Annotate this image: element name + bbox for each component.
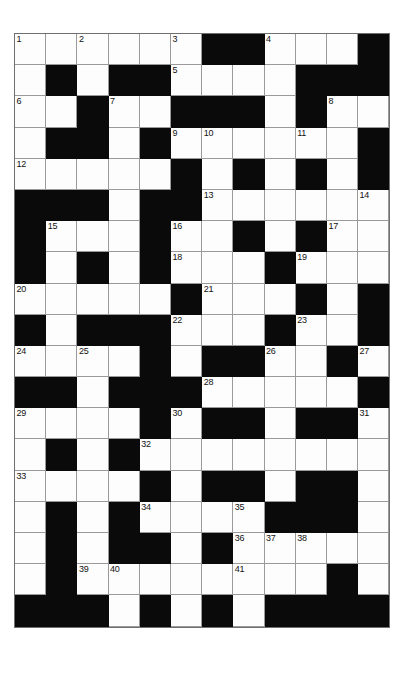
- open-cell[interactable]: [233, 252, 264, 283]
- open-cell[interactable]: [109, 34, 140, 65]
- open-cell[interactable]: [233, 315, 264, 346]
- open-cell[interactable]: 17: [327, 221, 358, 252]
- open-cell[interactable]: 4: [265, 34, 296, 65]
- open-cell[interactable]: [46, 346, 77, 377]
- open-cell[interactable]: [233, 439, 264, 470]
- open-cell[interactable]: [296, 34, 327, 65]
- open-cell[interactable]: 38: [296, 533, 327, 564]
- open-cell[interactable]: [46, 96, 77, 127]
- open-cell[interactable]: [77, 471, 108, 502]
- open-cell[interactable]: [171, 471, 202, 502]
- open-cell[interactable]: [46, 159, 77, 190]
- open-cell[interactable]: 40: [109, 564, 140, 595]
- open-cell[interactable]: 11: [296, 128, 327, 159]
- open-cell[interactable]: [358, 221, 389, 252]
- open-cell[interactable]: [358, 502, 389, 533]
- open-cell[interactable]: [171, 346, 202, 377]
- open-cell[interactable]: [233, 65, 264, 96]
- open-cell[interactable]: [202, 439, 233, 470]
- open-cell[interactable]: 33: [15, 471, 46, 502]
- open-cell[interactable]: [327, 252, 358, 283]
- open-cell[interactable]: [358, 533, 389, 564]
- open-cell[interactable]: [109, 159, 140, 190]
- open-cell[interactable]: 26: [265, 346, 296, 377]
- open-cell[interactable]: [265, 377, 296, 408]
- open-cell[interactable]: [358, 96, 389, 127]
- open-cell[interactable]: [233, 128, 264, 159]
- open-cell[interactable]: 21: [202, 284, 233, 315]
- open-cell[interactable]: [15, 502, 46, 533]
- open-cell[interactable]: [327, 377, 358, 408]
- open-cell[interactable]: 37: [265, 533, 296, 564]
- open-cell[interactable]: 16: [171, 221, 202, 252]
- open-cell[interactable]: 36: [233, 533, 264, 564]
- open-cell[interactable]: [140, 564, 171, 595]
- open-cell[interactable]: [77, 502, 108, 533]
- open-cell[interactable]: [77, 65, 108, 96]
- open-cell[interactable]: 29: [15, 408, 46, 439]
- open-cell[interactable]: [296, 190, 327, 221]
- open-cell[interactable]: 5: [171, 65, 202, 96]
- open-cell[interactable]: [327, 284, 358, 315]
- open-cell[interactable]: [171, 564, 202, 595]
- open-cell[interactable]: [296, 377, 327, 408]
- open-cell[interactable]: [46, 315, 77, 346]
- open-cell[interactable]: [233, 284, 264, 315]
- open-cell[interactable]: [140, 96, 171, 127]
- open-cell[interactable]: [171, 502, 202, 533]
- open-cell[interactable]: 41: [233, 564, 264, 595]
- open-cell[interactable]: [265, 284, 296, 315]
- open-cell[interactable]: 30: [171, 408, 202, 439]
- open-cell[interactable]: [77, 284, 108, 315]
- open-cell[interactable]: [327, 34, 358, 65]
- open-cell[interactable]: [77, 439, 108, 470]
- open-cell[interactable]: [77, 533, 108, 564]
- open-cell[interactable]: 10: [202, 128, 233, 159]
- open-cell[interactable]: [296, 439, 327, 470]
- open-cell[interactable]: [109, 284, 140, 315]
- open-cell[interactable]: [327, 128, 358, 159]
- open-cell[interactable]: 39: [77, 564, 108, 595]
- open-cell[interactable]: [77, 221, 108, 252]
- open-cell[interactable]: [202, 221, 233, 252]
- open-cell[interactable]: [140, 284, 171, 315]
- open-cell[interactable]: 34: [140, 502, 171, 533]
- open-cell[interactable]: [46, 408, 77, 439]
- open-cell[interactable]: [109, 471, 140, 502]
- open-cell[interactable]: [296, 346, 327, 377]
- open-cell[interactable]: [77, 408, 108, 439]
- open-cell[interactable]: [358, 471, 389, 502]
- open-cell[interactable]: [296, 564, 327, 595]
- crossword-grid[interactable]: 1234567891011121314151617181920212223242…: [14, 33, 390, 628]
- open-cell[interactable]: [15, 564, 46, 595]
- open-cell[interactable]: [109, 346, 140, 377]
- open-cell[interactable]: [202, 159, 233, 190]
- open-cell[interactable]: 2: [77, 34, 108, 65]
- open-cell[interactable]: 14: [358, 190, 389, 221]
- open-cell[interactable]: [171, 595, 202, 626]
- open-cell[interactable]: 13: [202, 190, 233, 221]
- open-cell[interactable]: 18: [171, 252, 202, 283]
- open-cell[interactable]: [140, 34, 171, 65]
- open-cell[interactable]: [46, 34, 77, 65]
- open-cell[interactable]: 12: [15, 159, 46, 190]
- open-cell[interactable]: 28: [202, 377, 233, 408]
- open-cell[interactable]: [202, 502, 233, 533]
- open-cell[interactable]: [46, 252, 77, 283]
- open-cell[interactable]: [15, 128, 46, 159]
- open-cell[interactable]: 15: [46, 221, 77, 252]
- open-cell[interactable]: [327, 533, 358, 564]
- open-cell[interactable]: [265, 65, 296, 96]
- open-cell[interactable]: [265, 564, 296, 595]
- open-cell[interactable]: [202, 65, 233, 96]
- open-cell[interactable]: [140, 159, 171, 190]
- open-cell[interactable]: 7: [109, 96, 140, 127]
- open-cell[interactable]: 1: [15, 34, 46, 65]
- open-cell[interactable]: [327, 439, 358, 470]
- open-cell[interactable]: 3: [171, 34, 202, 65]
- open-cell[interactable]: 6: [15, 96, 46, 127]
- open-cell[interactable]: 24: [15, 346, 46, 377]
- open-cell[interactable]: 25: [77, 346, 108, 377]
- open-cell[interactable]: [358, 252, 389, 283]
- open-cell[interactable]: [265, 221, 296, 252]
